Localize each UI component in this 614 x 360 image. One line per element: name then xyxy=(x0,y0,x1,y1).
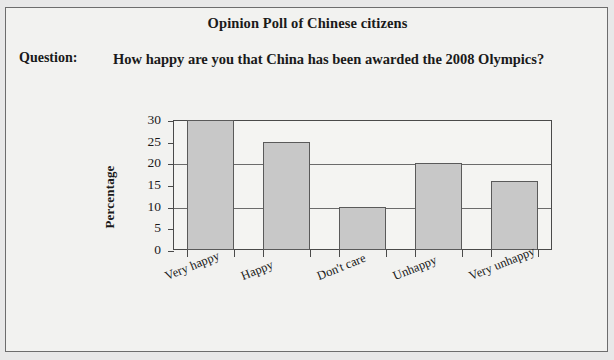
x-axis-tick xyxy=(491,250,492,257)
x-axis-tick xyxy=(234,250,235,257)
bar-unhappy xyxy=(415,163,462,250)
x-axis-tick xyxy=(538,250,539,257)
bar-happy xyxy=(263,142,310,250)
y-axis-tick-label: 0 xyxy=(131,243,161,257)
y-axis-tick xyxy=(168,229,174,230)
y-axis-tick xyxy=(168,164,174,165)
y-axis-tick-label: 25 xyxy=(131,135,161,149)
y-axis-tick xyxy=(168,251,174,252)
x-axis-label-happy: Happy xyxy=(239,258,276,284)
x-axis-label-very-happy: Very happy xyxy=(163,249,222,284)
x-axis-tick xyxy=(386,250,387,257)
y-axis-tick xyxy=(168,186,174,187)
x-axis-tick xyxy=(415,250,416,257)
y-axis-tick xyxy=(168,143,174,144)
y-axis-tick xyxy=(168,208,174,209)
x-axis-tick xyxy=(187,250,188,257)
y-axis-tick-label: 15 xyxy=(131,178,161,192)
y-axis-tick-label: 5 xyxy=(131,221,161,235)
y-axis-title: Percentage xyxy=(102,142,118,252)
bar-very-unhappy xyxy=(491,181,538,250)
x-axis-tick xyxy=(263,250,264,257)
bar-chart: Percentage 051015202530Very happyHappyDo… xyxy=(6,8,609,353)
y-axis-tick xyxy=(168,121,174,122)
x-axis-tick xyxy=(339,250,340,257)
x-axis-label-don-t-care: Don't care xyxy=(315,251,368,284)
poll-panel: Opinion Poll of Chinese citizens Questio… xyxy=(5,7,608,352)
x-axis-tick xyxy=(462,250,463,257)
y-axis-tick-label: 20 xyxy=(131,156,161,170)
bar-very-happy xyxy=(187,120,234,250)
y-axis-tick-label: 30 xyxy=(131,113,161,127)
x-axis-label-unhappy: Unhappy xyxy=(391,253,439,284)
bar-don-t-care xyxy=(339,207,386,250)
x-axis-tick xyxy=(310,250,311,257)
y-axis-tick-label: 10 xyxy=(131,200,161,214)
